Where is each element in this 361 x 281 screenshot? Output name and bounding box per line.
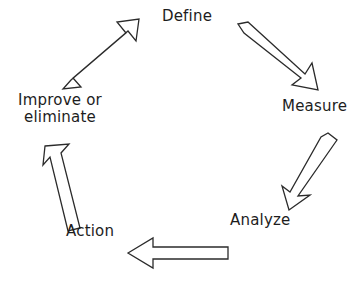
node-label-action: Action — [66, 223, 132, 240]
node-label-improve: Improve or eliminate — [8, 92, 112, 126]
node-label-measure: Measure — [282, 98, 360, 115]
node-label-analyze: Analyze — [230, 212, 306, 229]
cycle-diagram-svg — [0, 0, 361, 281]
arrow-action-to-improve — [43, 144, 80, 231]
node-label-define: Define — [152, 8, 222, 25]
arrow-define-to-measure — [238, 22, 318, 90]
arrow-improve-to-define — [63, 19, 139, 89]
diagram-canvas: Define Measure Analyze Action Improve or… — [0, 0, 361, 281]
arrow-measure-to-analyze — [282, 133, 337, 210]
arrow-analyze-to-action — [128, 238, 228, 268]
